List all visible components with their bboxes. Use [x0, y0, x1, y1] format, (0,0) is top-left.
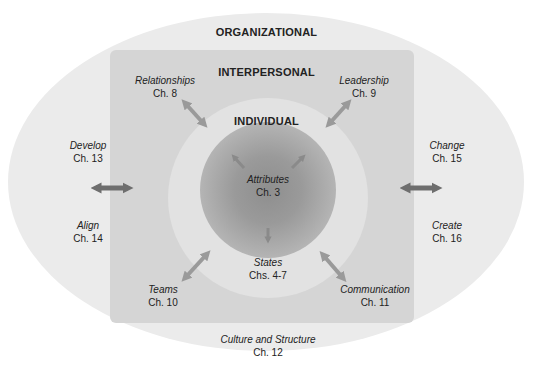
culture-structure-chapter: Ch. 12 — [198, 346, 338, 359]
individual-heading: INDIVIDUAL — [0, 115, 533, 127]
attributes-chapter: Ch. 3 — [218, 186, 318, 199]
create-label: Create Ch. 16 — [407, 219, 487, 245]
develop-label: Develop Ch. 13 — [48, 139, 128, 165]
teams-name: Teams — [113, 283, 213, 296]
states-name: States — [218, 256, 318, 269]
organizational-heading: ORGANIZATIONAL — [0, 26, 533, 38]
communication-chapter: Ch. 11 — [315, 296, 435, 309]
culture-structure-label: Culture and Structure Ch. 12 — [198, 333, 338, 359]
attributes-name: Attributes — [218, 173, 318, 186]
leadership-chapter: Ch. 9 — [314, 87, 414, 100]
interpersonal-heading: INTERPERSONAL — [0, 66, 533, 78]
states-label: States Chs. 4-7 — [218, 256, 318, 282]
communication-label: Communication Ch. 11 — [315, 283, 435, 309]
teams-arrow — [185, 254, 207, 278]
align-chapter: Ch. 14 — [48, 232, 128, 245]
develop-name: Develop — [48, 139, 128, 152]
states-chapter: Chs. 4-7 — [218, 269, 318, 282]
teams-label: Teams Ch. 10 — [113, 283, 213, 309]
create-name: Create — [407, 219, 487, 232]
relationships-label: Relationships Ch. 8 — [115, 74, 215, 100]
attributes-up-left-arrow — [234, 157, 244, 168]
align-label: Align Ch. 14 — [48, 219, 128, 245]
attributes-label: Attributes Ch. 3 — [218, 173, 318, 199]
communication-arrow — [323, 255, 343, 278]
culture-structure-name: Culture and Structure — [198, 333, 338, 346]
leadership-name: Leadership — [314, 74, 414, 87]
relationships-chapter: Ch. 8 — [115, 87, 215, 100]
relationships-name: Relationships — [115, 74, 215, 87]
change-label: Change Ch. 15 — [407, 139, 487, 165]
develop-chapter: Ch. 13 — [48, 152, 128, 165]
align-name: Align — [48, 219, 128, 232]
leadership-label: Leadership Ch. 9 — [314, 74, 414, 100]
create-chapter: Ch. 16 — [407, 232, 487, 245]
teams-chapter: Ch. 10 — [113, 296, 213, 309]
change-name: Change — [407, 139, 487, 152]
attributes-up-right-arrow — [292, 157, 303, 168]
change-chapter: Ch. 15 — [407, 152, 487, 165]
communication-name: Communication — [315, 283, 435, 296]
